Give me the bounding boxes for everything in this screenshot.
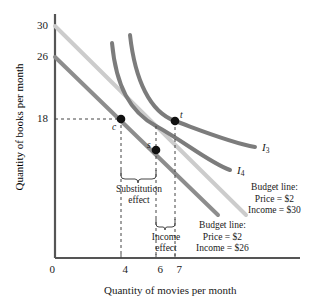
point-label-c: c — [112, 122, 116, 133]
data-point-s — [152, 146, 161, 155]
budget-note-inner-line2: Price = $2 — [196, 232, 249, 244]
point-label-s: s — [147, 140, 151, 151]
point-label-t: t — [180, 110, 183, 121]
substitution-effect-label: Substitution effect — [97, 184, 181, 205]
income-effect-label: Income effect — [139, 232, 193, 253]
indifference-curve-i3 — [130, 35, 255, 147]
income-effect-bracket — [156, 219, 175, 230]
substitution-effect-line1: Substitution — [97, 184, 181, 195]
budget-note-inner-line3: Income = $26 — [196, 243, 249, 255]
substitution-effect-line2: effect — [97, 195, 181, 206]
budget-note-outer-line1: Budget line: — [248, 182, 301, 194]
indifference-curve-chart: 30 26 18 0 4 6 7 Quantity of movies per … — [0, 0, 336, 306]
budget-note-outer-line3: Income = $30 — [248, 205, 301, 217]
y-axis-title-wrapper: Quantity of books per month — [9, 47, 27, 207]
curve-label-i3: I3 — [262, 141, 269, 153]
x-axis-title: Quantity of movies per month — [104, 284, 237, 296]
income-effect-line2: effect — [139, 243, 193, 254]
curve-label-i4: I4 — [237, 164, 244, 176]
y-axis-title: Quantity of books per month — [13, 63, 25, 190]
substitution-effect-bracket — [121, 170, 156, 183]
x-tick-label-7: 7 — [168, 263, 182, 275]
data-point-c — [117, 115, 126, 124]
curve-label-i3-sub: 3 — [266, 146, 270, 155]
budget-note-inner-line1: Budget line: — [196, 220, 249, 232]
x-tick-label-0: 0 — [41, 263, 55, 275]
budget-note-income-26: Budget line: Price = $2 Income = $26 — [196, 220, 249, 255]
y-tick-label-30: 30 — [20, 19, 48, 31]
plot-area — [0, 0, 336, 306]
x-tick-label-6: 6 — [149, 263, 163, 275]
budget-note-income-30: Budget line: Price = $2 Income = $30 — [248, 182, 301, 217]
income-effect-line1: Income — [139, 232, 193, 243]
curve-label-i4-sub: 4 — [241, 169, 245, 178]
data-point-t — [171, 117, 180, 126]
budget-note-outer-line2: Price = $2 — [248, 194, 301, 206]
x-tick-label-4: 4 — [114, 263, 128, 275]
indifference-curve-i4 — [112, 43, 230, 170]
